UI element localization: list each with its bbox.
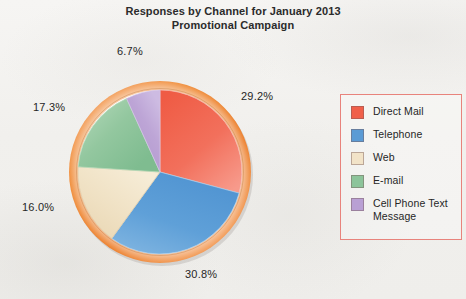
legend-label-direct-mail-line-1: Direct Mail — [373, 105, 424, 118]
legend-swatch-cell-phone-text-message — [351, 198, 364, 211]
pie-svg — [68, 80, 252, 264]
pie-label-direct-mail-pct: 29.2% — [241, 90, 273, 102]
legend-swatch-web — [351, 152, 364, 165]
legend-item-telephone[interactable]: Telephone — [351, 128, 457, 142]
legend-label-direct-mail: Direct Mail — [373, 105, 424, 118]
legend-label-email-line-1: E-mail — [373, 174, 403, 187]
legend-item-email[interactable]: E-mail — [351, 174, 457, 188]
chart-title: Responses by Channel for January 2013 Pr… — [0, 5, 466, 32]
legend-label-telephone: Telephone — [373, 128, 422, 141]
pie-chart-figure: Responses by Channel for January 2013 Pr… — [0, 0, 466, 299]
legend-item-direct-mail[interactable]: Direct Mail — [351, 105, 457, 119]
legend-swatch-email — [351, 175, 364, 188]
legend-label-cell-line-2: Message — [373, 210, 448, 223]
legend-item-web[interactable]: Web — [351, 151, 457, 165]
legend-label-email: E-mail — [373, 174, 403, 187]
pie-label-email-pct: 17.3% — [33, 101, 65, 113]
legend-item-cell-phone-text-message[interactable]: Cell Phone Text Message — [351, 197, 457, 222]
pie-label-web-pct: 16.0% — [22, 201, 54, 213]
legend-swatch-direct-mail — [351, 106, 364, 119]
chart-title-line-1: Responses by Channel for January 2013 — [0, 5, 466, 19]
pie-label-telephone-pct: 30.8% — [185, 268, 217, 280]
legend-label-cell-phone-text-message: Cell Phone Text Message — [373, 197, 448, 222]
legend-label-cell-line-1: Cell Phone Text — [373, 197, 448, 210]
pie-graphic — [68, 80, 252, 264]
legend-label-web: Web — [373, 151, 395, 164]
pie-label-cell-phone-pct: 6.7% — [117, 45, 143, 57]
chart-legend: Direct Mail Telephone Web E-mail — [340, 94, 462, 240]
legend-label-telephone-line-1: Telephone — [373, 128, 422, 141]
legend-swatch-telephone — [351, 129, 364, 142]
legend-label-web-line-1: Web — [373, 151, 395, 164]
legend-item-list: Direct Mail Telephone Web E-mail — [351, 105, 457, 222]
chart-title-line-2: Promotional Campaign — [0, 19, 466, 33]
